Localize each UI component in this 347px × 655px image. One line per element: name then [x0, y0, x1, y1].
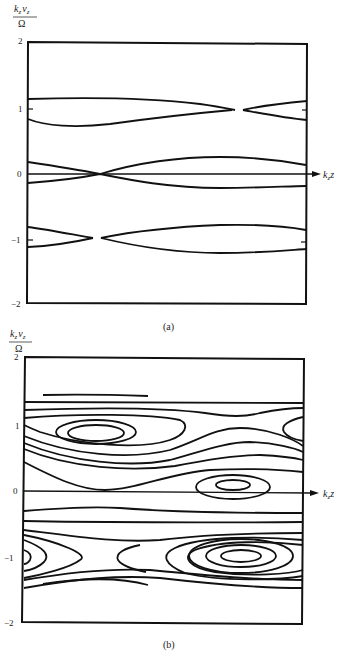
svg-text:kzz: kzz — [323, 488, 334, 501]
ytick-neg1: −1 — [11, 235, 21, 245]
panel-a-xaxis: kzz — [28, 169, 334, 182]
svg-text:Ω: Ω — [18, 18, 25, 29]
arrow-right-icon — [312, 171, 321, 177]
figure: kzvz Ω 2 1 0 −1 −2 kzz — [0, 0, 347, 655]
panel-a-curves-zero — [28, 157, 306, 188]
panel-a-curves-minus1 — [28, 225, 306, 253]
panel-a-frame — [27, 42, 307, 304]
panel-b-frame — [22, 357, 304, 624]
ytick-neg2: −2 — [4, 618, 14, 628]
ytick-2: 2 — [14, 352, 19, 362]
ytick-1: 1 — [18, 104, 23, 114]
svg-text:kzvz: kzvz — [14, 3, 30, 16]
panel-b-caption: (b) — [163, 639, 175, 651]
ytick-neg1: −1 — [4, 553, 14, 563]
ytick-neg2: −2 — [11, 299, 21, 309]
panel-b-ylabel: kzvz Ω — [9, 328, 32, 354]
panel-b: kzvz Ω 2 1 0 −1 −2 kzz — [4, 328, 334, 651]
panel-a-curves-plus1 — [28, 98, 307, 126]
ytick-2: 2 — [18, 36, 23, 46]
panel-a-caption: (a) — [163, 321, 174, 333]
arrow-right-icon — [310, 490, 319, 496]
ytick-0: 0 — [17, 169, 22, 179]
svg-text:kzz: kzz — [323, 169, 334, 182]
panel-b-xaxis: kzz — [23, 488, 334, 501]
panel-a-ylabel: kzvz Ω — [13, 3, 37, 29]
ytick-1: 1 — [15, 421, 20, 431]
svg-text:kzvz: kzvz — [10, 328, 26, 341]
panel-a: kzvz Ω 2 1 0 −1 −2 kzz — [11, 3, 334, 333]
ytick-0: 0 — [13, 486, 18, 496]
